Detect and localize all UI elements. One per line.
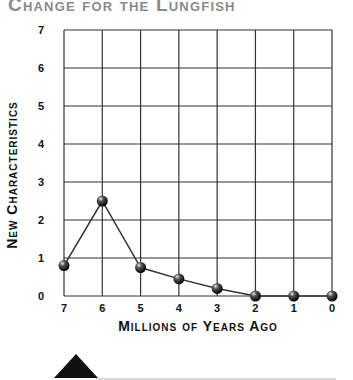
data-point-marker	[97, 196, 108, 207]
data-point-marker	[173, 273, 184, 284]
x-tick-label: 4	[176, 302, 183, 314]
data-point-marker	[135, 262, 146, 273]
y-axis-ticks: 01234567	[38, 24, 45, 302]
x-tick-label: 2	[252, 302, 258, 314]
y-tick-label: 0	[38, 290, 44, 302]
x-axis-ticks: 76543210	[61, 302, 335, 314]
y-tick-label: 2	[38, 214, 44, 226]
y-tick-label: 7	[38, 24, 44, 36]
x-tick-label: 7	[61, 302, 67, 314]
x-tick-label: 5	[138, 302, 144, 314]
x-tick-label: 0	[329, 302, 335, 314]
data-point-marker	[59, 260, 70, 271]
y-tick-label: 3	[38, 176, 44, 188]
line-chart: 01234567 76543210	[0, 0, 353, 380]
data-point-marker	[250, 291, 261, 302]
y-tick-label: 1	[38, 252, 44, 264]
data-point-marker	[288, 291, 299, 302]
data-point-marker	[327, 291, 338, 302]
diamond-marker-icon	[54, 354, 98, 378]
y-tick-label: 5	[38, 100, 44, 112]
x-tick-label: 3	[214, 302, 220, 314]
data-point-marker	[212, 283, 223, 294]
y-tick-label: 6	[38, 62, 44, 74]
x-tick-label: 6	[99, 302, 105, 314]
y-tick-label: 4	[38, 138, 45, 150]
data-series	[59, 196, 338, 302]
chart-grid	[64, 30, 332, 296]
x-tick-label: 1	[291, 302, 297, 314]
